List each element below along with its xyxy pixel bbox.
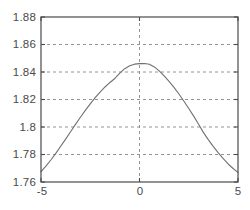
- line-chart-plot: [0, 0, 250, 210]
- y-tick-label-1-84: 1.84: [0, 66, 36, 78]
- y-tick-label-1-88: 1.88: [0, 11, 36, 23]
- y-tick-label-1-86: 1.86: [0, 38, 36, 50]
- figure-canvas: 1.88 1.86 1.84 1.82 1.8 1.78 1.76 -5 0 5: [0, 0, 250, 210]
- y-tick-label-1-78: 1.78: [0, 148, 36, 160]
- x-tick-label-0: 0: [125, 185, 155, 197]
- y-tick-label-1-82: 1.82: [0, 93, 36, 105]
- x-tick-label-5: 5: [223, 185, 250, 197]
- y-tick-label-1-8: 1.8: [0, 121, 36, 133]
- x-tick-label-minus-5: -5: [27, 185, 57, 197]
